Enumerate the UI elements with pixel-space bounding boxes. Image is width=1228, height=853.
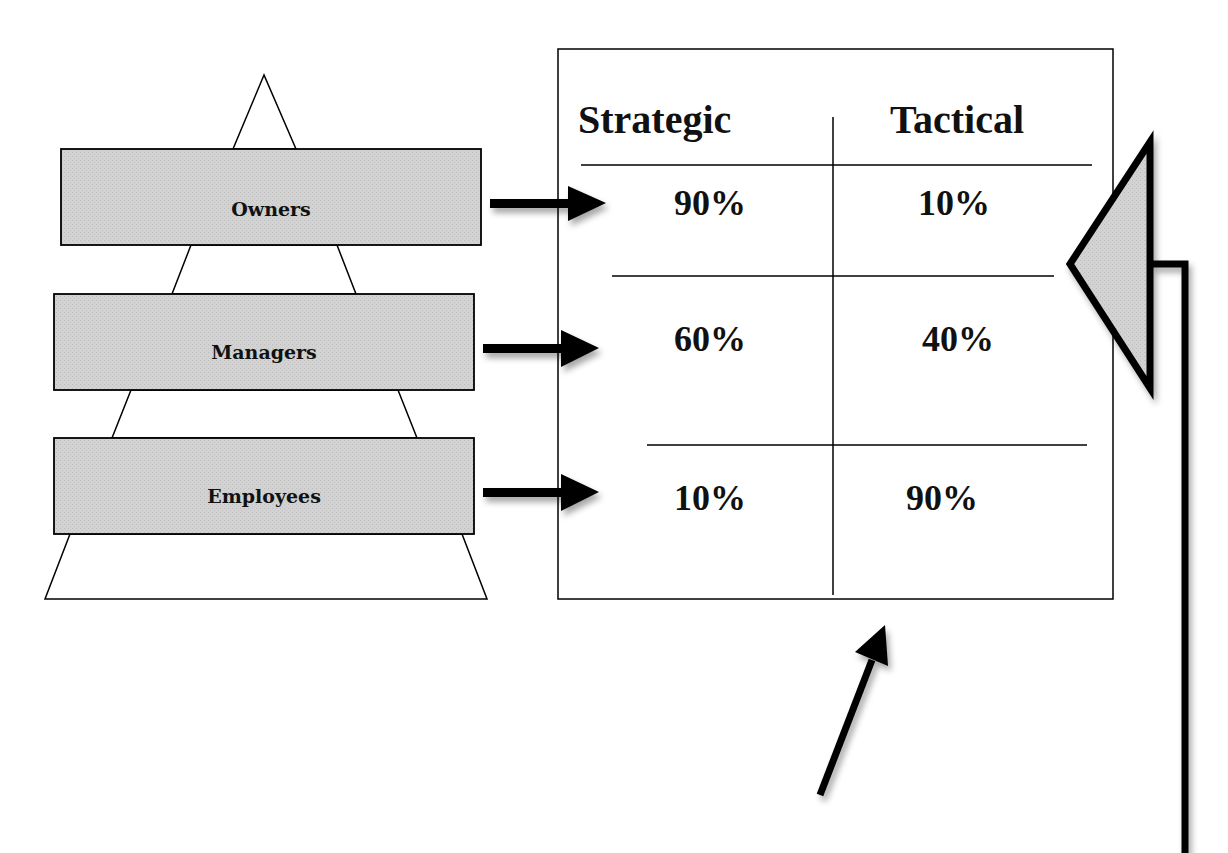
pyramid-segment-3	[112, 390, 417, 438]
feedback-connector	[1150, 264, 1185, 853]
feedback-loop	[1070, 142, 1185, 853]
pyramid-segment-2	[172, 245, 356, 294]
arrow-managers-icon	[483, 330, 599, 367]
employees-strategic-value: 10%	[640, 477, 780, 519]
header-strategic: Strategic	[578, 96, 756, 143]
employees-label: Employees	[54, 485, 474, 507]
managers-label: Managers	[54, 341, 474, 363]
managers-tactical-value: 40%	[888, 318, 1028, 360]
arrow-employees-icon	[483, 474, 599, 511]
arrow-diagonal-icon	[820, 625, 888, 795]
feedback-triangle-icon	[1070, 142, 1150, 388]
owners-tactical-value: 10%	[884, 182, 1024, 224]
owners-label: Owners	[61, 198, 481, 220]
owners-strategic-value: 90%	[640, 182, 780, 224]
employees-tactical-value: 90%	[872, 477, 1012, 519]
pyramid-apex	[233, 75, 296, 149]
pyramid-base	[45, 534, 487, 599]
arrow-owners-icon	[490, 186, 606, 221]
managers-strategic-value: 60%	[640, 318, 780, 360]
owners-box	[61, 149, 481, 245]
header-tactical: Tactical	[890, 96, 1060, 143]
